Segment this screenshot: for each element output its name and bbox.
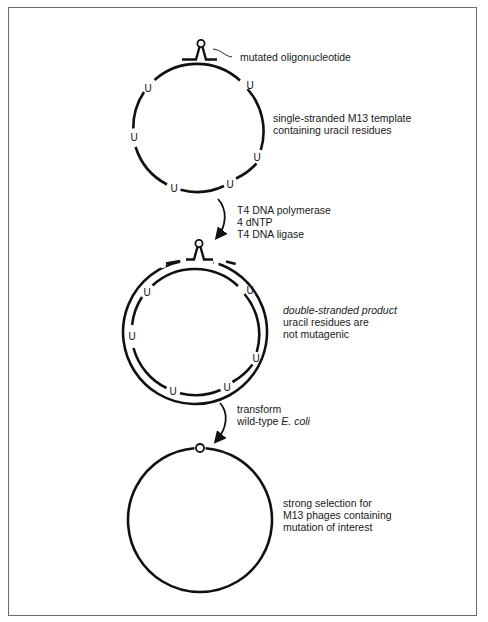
- mutation-loop-icon: [196, 444, 204, 452]
- description-line: not mutagenic: [283, 328, 397, 340]
- uracil-label: U: [253, 152, 260, 163]
- step-arrow-icon: [218, 199, 225, 236]
- uracil-label: U: [169, 386, 176, 397]
- uracil-label: U: [128, 331, 135, 342]
- description-line: strong selection for: [283, 497, 392, 509]
- uracil-label: U: [144, 83, 151, 94]
- uracil-label: U: [170, 183, 177, 194]
- step-line: wild-type E. coli: [237, 415, 310, 427]
- template-description: single-stranded M13 template containing …: [273, 112, 411, 136]
- product-description: double-stranded product uracil residues …: [283, 304, 397, 340]
- double-stranded-product-circle: [123, 262, 267, 405]
- oligo-loop-icon: [186, 240, 213, 260]
- host-prefix: wild-type: [237, 415, 281, 427]
- reagent-line: T4 DNA ligase: [237, 228, 331, 240]
- description-line: mutation of interest: [283, 521, 392, 533]
- step-2-transform: transform wild-type E. coli: [237, 403, 310, 427]
- uracil-label: U: [246, 80, 253, 91]
- single-stranded-template-circle: [133, 64, 263, 192]
- uracil-label: U: [252, 353, 259, 364]
- description-line: containing uracil residues: [273, 124, 411, 136]
- uracil-label: U: [130, 132, 137, 143]
- host-species: E. coli: [281, 415, 310, 427]
- uracil-label: U: [246, 285, 253, 296]
- mutagenesis-diagram: U U U U U U: [0, 0, 488, 622]
- callout-leader-line: [213, 49, 232, 57]
- uracil-label: U: [143, 287, 150, 298]
- reagent-line: 4 dNTP: [237, 216, 331, 228]
- mutated-oligonucleotide-icon: [182, 40, 217, 60]
- step-line: transform: [237, 403, 310, 415]
- reagent-line: T4 DNA polymerase: [237, 204, 331, 216]
- description-line: uracil residues are: [283, 316, 397, 328]
- oligonucleotide-callout: mutated oligonucleotide: [240, 51, 351, 63]
- selected-phage-circle: [128, 444, 272, 592]
- step-arrow-icon: [217, 403, 226, 440]
- uracil-residues-product: U U U U U U: [128, 285, 259, 397]
- description-line: M13 phages containing: [283, 509, 392, 521]
- step-1-reagents: T4 DNA polymerase 4 dNTP T4 DNA ligase: [237, 204, 331, 240]
- description-line: double-stranded product: [283, 304, 397, 316]
- uracil-label: U: [226, 179, 233, 190]
- selection-description: strong selection for M13 phages containi…: [283, 497, 392, 533]
- description-line: single-stranded M13 template: [273, 112, 411, 124]
- uracil-label: U: [223, 382, 230, 393]
